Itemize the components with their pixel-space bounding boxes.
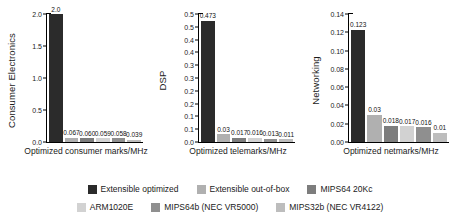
bar-cell: 0.018 [383, 14, 399, 142]
bar: 0.018 [384, 126, 398, 142]
bar: 2.0 [49, 14, 63, 142]
y-axis-tick-label: 0.3 [184, 62, 194, 69]
y-axis-title: Consumer Electronics [0, 0, 22, 160]
y-axis-tick-label: 0.1 [184, 113, 194, 120]
y-axis-tick-label: 0.12 [330, 29, 344, 36]
bar: 0.123 [351, 30, 365, 142]
bar-group: 2.00.0670.0600.0590.0580.039 [47, 14, 143, 142]
x-axis-title: Optimized consumer marks/MHz [20, 146, 152, 156]
legend-item[interactable]: MIPS64 20Kc [307, 185, 372, 194]
bar-cell: 0.016 [247, 14, 263, 142]
bar-cell: 0.017 [399, 14, 415, 142]
y-axis-tick-labels: 0.000.020.040.060.080.100.120.14 [322, 14, 348, 142]
bar-cell: 0.01 [432, 14, 448, 142]
legend-item-label: MIPS64b (NEC VR5000) [164, 203, 258, 212]
legend-color-swatch [151, 203, 160, 212]
bar: 0.059 [96, 138, 110, 142]
y-axis-tick-labels: 0.00.51.01.52.0 [20, 14, 46, 142]
y-axis-tick-label: 0.04 [330, 102, 344, 109]
bar: 0.01 [433, 133, 447, 142]
bar: 0.060 [80, 138, 94, 142]
legend-item[interactable]: MIPS32b (NEC VR4122) [276, 203, 383, 212]
bar-cell: 0.123 [350, 14, 366, 142]
y-axis-title-text: DSP [158, 70, 169, 90]
x-axis-title: Optimized telemarks/MHz [172, 146, 304, 156]
y-axis-tick-label: 0.2 [184, 100, 194, 107]
y-axis-tick-label: 0.0 [32, 139, 42, 146]
bar-cell: 0.059 [95, 14, 111, 142]
plot-area: 2.00.0670.0600.0590.0580.039 [46, 14, 143, 143]
bar-value-label: 0.011 [278, 132, 294, 139]
bar-value-label: 0.039 [126, 132, 142, 139]
bar-value-label: 0.01 [433, 125, 446, 132]
y-axis-tick-label: 2.0 [32, 11, 42, 18]
legend-item[interactable]: ARM1020E [77, 203, 133, 212]
chart-panel-dsp: DSP 0.00.10.10.20.20.30.30.40.40.50.5 0.… [152, 0, 304, 178]
y-axis-tick-label: 0.5 [184, 23, 194, 30]
bar-value-label: 0.018 [383, 118, 399, 125]
chart-panel-consumer-electronics: Consumer Electronics 0.00.51.01.52.0 2.0… [0, 0, 152, 178]
legend-item-label: ARM1020E [90, 203, 133, 212]
bar-cell: 2.0 [48, 14, 64, 142]
bar-value-label: 0.059 [95, 131, 111, 138]
bar-value-label: 0.060 [79, 131, 95, 138]
bar-cell: 0.03 [366, 14, 382, 142]
y-axis-title-text: Networking [310, 56, 321, 105]
y-axis-tick-label: 1.5 [32, 43, 42, 50]
plot-area: 0.1230.030.0180.0170.0160.01 [348, 14, 449, 143]
bar-cell: 0.011 [278, 14, 294, 142]
bar-value-label: 2.0 [51, 7, 60, 14]
bar-cell: 0.058 [111, 14, 127, 142]
legend-item[interactable]: Extensible optimized [88, 185, 179, 194]
bar-value-label: 0.017 [231, 130, 247, 137]
bar: 0.03 [217, 134, 231, 142]
bar-value-label: 0.03 [368, 107, 381, 114]
bar: 0.013 [264, 139, 278, 142]
bar-value-label: 0.017 [399, 119, 415, 126]
y-axis-tick-label: 1.0 [32, 75, 42, 82]
bar: 0.011 [279, 139, 293, 142]
y-axis-tick-label: 0.00 [330, 139, 344, 146]
legend-color-swatch [77, 203, 86, 212]
bar-value-label: 0.016 [247, 130, 263, 137]
legend-row-first: Extensible optimizedExtensible out-of-bo… [0, 180, 460, 198]
y-axis-tick-label: 0.3 [184, 75, 194, 82]
bar-value-label: 0.067 [63, 130, 79, 137]
bar-value-label: 0.03 [217, 127, 230, 134]
y-axis-tick-label: 0.10 [330, 47, 344, 54]
bar: 0.017 [400, 126, 414, 142]
bar-cell: 0.013 [263, 14, 279, 142]
bar-value-label: 0.123 [350, 22, 366, 29]
bar: 0.067 [65, 138, 79, 142]
bar-cell: 0.060 [79, 14, 95, 142]
bar-value-label: 0.058 [110, 131, 126, 138]
bar-value-label: 0.016 [415, 120, 431, 127]
chart-panels: Consumer Electronics 0.00.51.01.52.0 2.0… [0, 0, 460, 178]
bar-cell: 0.017 [231, 14, 247, 142]
bar-cell: 0.473 [200, 14, 216, 142]
y-axis-tick-label: 0.14 [330, 11, 344, 18]
legend-item-label: MIPS32b (NEC VR4122) [289, 203, 383, 212]
figure-three-panel-bar-charts: Consumer Electronics 0.00.51.01.52.0 2.0… [0, 0, 460, 220]
chart-legend: Extensible optimizedExtensible out-of-bo… [0, 180, 460, 220]
legend-item[interactable]: Extensible out-of-box [197, 185, 290, 194]
y-axis-tick-label: 0.02 [330, 120, 344, 127]
bar: 0.017 [232, 138, 246, 142]
y-axis-tick-label: 0.5 [184, 11, 194, 18]
y-axis-tick-label: 0.5 [32, 107, 42, 114]
legend-color-swatch [88, 185, 97, 194]
legend-item[interactable]: MIPS64b (NEC VR5000) [151, 203, 258, 212]
legend-item-label: MIPS64 20Kc [320, 185, 372, 194]
chart-panel-networking: Networking 0.000.020.040.060.080.100.120… [304, 0, 460, 178]
bar: 0.03 [367, 115, 381, 142]
legend-item-label: Extensible optimized [101, 185, 179, 194]
bar: 0.039 [127, 140, 141, 142]
legend-row-second: ARM1020EMIPS64b (NEC VR5000)MIPS32b (NEC… [0, 198, 460, 216]
legend-color-swatch [307, 185, 316, 194]
bar-value-label: 0.013 [262, 131, 278, 138]
legend-color-swatch [276, 203, 285, 212]
y-axis-tick-labels: 0.00.10.10.20.20.30.30.40.40.50.5 [172, 14, 198, 142]
bar-cell: 0.039 [126, 14, 142, 142]
bar: 0.058 [112, 138, 126, 142]
bar-cell: 0.067 [64, 14, 80, 142]
